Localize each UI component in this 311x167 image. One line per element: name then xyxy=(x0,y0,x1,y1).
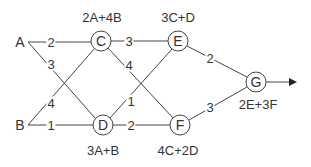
weight-B-D: 1 xyxy=(46,119,55,132)
arrow-right-icon xyxy=(289,78,297,86)
weight-D-E: 1 xyxy=(126,95,135,108)
node-D-formula: 3A+B xyxy=(86,144,120,157)
weight-D-F: 2 xyxy=(126,119,135,132)
node-F-label: F xyxy=(176,118,185,132)
input-B: B xyxy=(14,118,25,132)
edge-B-C xyxy=(28,49,94,125)
weight-C-F: 4 xyxy=(124,59,133,72)
node-C-label: C xyxy=(96,34,106,48)
node-D-label: D xyxy=(98,118,108,132)
weight-A-C: 2 xyxy=(46,36,55,49)
node-G-formula: 2E+3F xyxy=(238,98,279,111)
weight-A-D: 3 xyxy=(46,58,55,71)
weight-B-C: 4 xyxy=(46,97,55,110)
node-E-label: E xyxy=(173,34,182,48)
edge-A-D xyxy=(28,42,95,118)
weight-E-G: 2 xyxy=(205,52,214,65)
edge-E-G xyxy=(187,46,247,77)
node-G-label: G xyxy=(251,75,262,89)
weight-F-G: 3 xyxy=(205,101,214,114)
edge-D-E xyxy=(110,49,172,118)
diagram-canvas xyxy=(0,0,311,167)
node-E-formula: 3C+D xyxy=(160,11,196,24)
node-F-formula: 4C+2D xyxy=(157,144,200,157)
weight-C-E: 3 xyxy=(124,35,133,48)
node-C-formula: 2A+4B xyxy=(81,11,122,24)
input-A: A xyxy=(14,35,25,49)
